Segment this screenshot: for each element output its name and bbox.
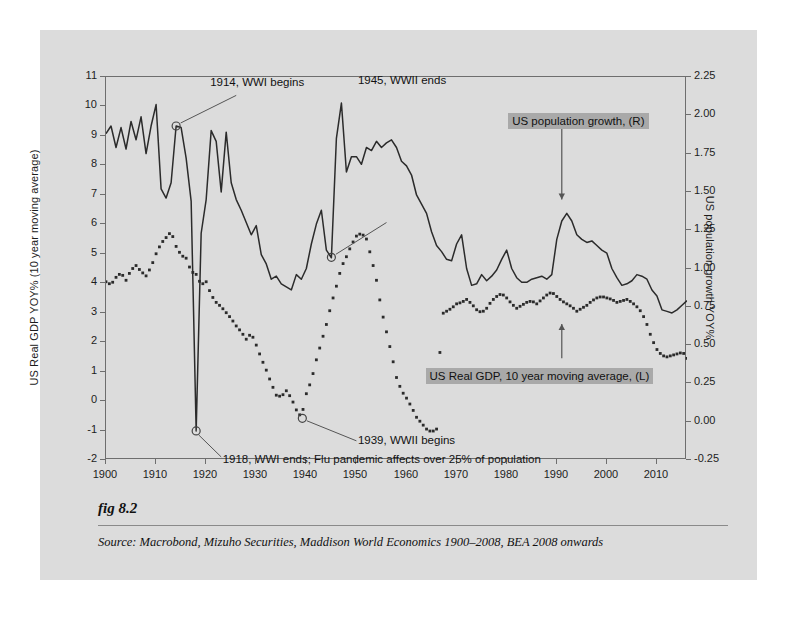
y-left-tick-6: 6 xyxy=(63,216,97,228)
gdp-dot xyxy=(252,336,255,339)
gdp-dot xyxy=(272,386,275,389)
gdp-dot xyxy=(402,392,405,395)
gdp-dot xyxy=(388,345,391,348)
gdp-dot xyxy=(515,307,518,310)
gdp-dot xyxy=(108,282,111,285)
gdp-dot xyxy=(148,269,151,272)
gdp-dot xyxy=(205,280,208,283)
figure-source: Source: Macrobond, Mizuho Securities, Ma… xyxy=(98,535,728,550)
gdp-dot xyxy=(636,305,639,308)
gdp-dot xyxy=(652,341,655,344)
gdp-dot xyxy=(398,385,401,388)
gdp-dot xyxy=(582,306,585,309)
series-label-population-growth: US population growth, (R) xyxy=(508,113,648,129)
gdp-dot xyxy=(305,392,308,395)
x-tick-1980: 1980 xyxy=(484,468,528,480)
gdp-dot xyxy=(405,397,408,400)
gdp-dot xyxy=(452,305,455,308)
gdp-dot xyxy=(372,264,375,267)
y-left-tick--2: -2 xyxy=(63,452,97,464)
gdp-dot xyxy=(155,252,158,255)
y-right-tick-0.75: 0.75 xyxy=(694,299,734,311)
gdp-dot xyxy=(609,298,612,301)
gdp-dot xyxy=(322,335,325,338)
caption-divider xyxy=(98,525,728,526)
gdp-dot xyxy=(161,240,164,243)
gdp-dot xyxy=(505,297,508,300)
gdp-dot xyxy=(482,310,485,313)
gdp-dot xyxy=(532,300,535,303)
gdp-dot xyxy=(522,303,525,306)
gdp-dot xyxy=(615,301,618,304)
gdp-dot xyxy=(672,354,675,357)
gdp-dot xyxy=(175,245,178,248)
y-left-tick-2: 2 xyxy=(63,334,97,346)
gdp-dot xyxy=(131,267,134,270)
gdp-dot xyxy=(342,262,345,265)
gdp-dot xyxy=(158,245,161,248)
gdp-dot xyxy=(278,395,281,398)
y-right-tick-1.00: 1.00 xyxy=(694,261,734,273)
gdp-dot xyxy=(499,293,502,296)
x-tick-1960: 1960 xyxy=(384,468,428,480)
y-right-tick-0.25: 0.25 xyxy=(694,375,734,387)
y-left-tick-7: 7 xyxy=(63,187,97,199)
gdp-dot xyxy=(345,255,348,258)
gdp-dot xyxy=(111,281,114,284)
gdp-dot xyxy=(365,238,368,241)
annotation-wwii-begins: 1939, WWII begins xyxy=(358,434,455,446)
x-tick-1990: 1990 xyxy=(534,468,578,480)
gdp-dot xyxy=(549,292,552,295)
gdp-dot xyxy=(221,307,224,310)
gdp-dot xyxy=(315,358,318,361)
gdp-dot xyxy=(382,316,385,319)
gdp-dot xyxy=(425,428,428,431)
gdp-dot xyxy=(358,233,361,236)
y-left-tick-0: 0 xyxy=(63,393,97,405)
gdp-dot xyxy=(585,304,588,307)
gdp-dot xyxy=(201,282,204,285)
leader-line xyxy=(181,95,237,123)
gdp-dot xyxy=(512,304,515,307)
gdp-dot xyxy=(442,312,445,315)
gdp-dot xyxy=(242,333,245,336)
gdp-dot xyxy=(686,357,687,360)
gdp-dot xyxy=(415,416,418,419)
gdp-dot xyxy=(418,420,421,423)
plot-box xyxy=(105,76,686,459)
x-tick-2000: 2000 xyxy=(584,468,628,480)
gdp-dot xyxy=(128,272,131,275)
y-left-tick-11: 11 xyxy=(63,69,97,81)
gdp-dot xyxy=(375,279,378,282)
gdp-dot xyxy=(215,301,218,304)
y-left-tick--1: -1 xyxy=(63,423,97,435)
leader-line xyxy=(199,435,222,457)
gdp-dot xyxy=(605,297,608,300)
gdp-dot xyxy=(529,300,532,303)
leader-line xyxy=(307,421,357,441)
gdp-dot xyxy=(599,296,602,299)
gdp-dot xyxy=(469,301,472,304)
gdp-dot xyxy=(539,300,542,303)
gdp-dot xyxy=(211,296,214,299)
y-right-tick-1.50: 1.50 xyxy=(694,184,734,196)
y-right-tick-1.75: 1.75 xyxy=(694,146,734,158)
gdp-dot xyxy=(125,279,128,282)
gdp-dot xyxy=(662,355,665,358)
gdp-dot xyxy=(629,300,632,303)
gdp-dot xyxy=(238,328,241,331)
gdp-dot xyxy=(422,424,425,427)
gdp-dot xyxy=(462,300,465,303)
x-tick-1970: 1970 xyxy=(434,468,478,480)
gdp-dot xyxy=(619,300,622,303)
gdp-dot xyxy=(465,298,468,301)
y-left-tick-5: 5 xyxy=(63,246,97,258)
gdp-dot xyxy=(632,302,635,305)
y-right-tick-1.25: 1.25 xyxy=(694,222,734,234)
gdp-dot xyxy=(659,352,662,355)
annotation-arrow-head xyxy=(559,324,565,330)
gdp-dot xyxy=(612,299,615,302)
gdp-dot xyxy=(565,302,568,305)
gdp-dot xyxy=(649,333,652,336)
y-right-tick-2.00: 2.00 xyxy=(694,107,734,119)
